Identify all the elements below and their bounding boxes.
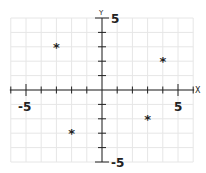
x-tick-label-max: 5 (174, 100, 182, 114)
scatter-chart: **** Y X -5 5 5 -5 (0, 0, 206, 173)
asterisk-marker: * (53, 40, 60, 55)
axes (10, 18, 194, 162)
asterisk-marker: * (68, 126, 75, 141)
y-axis-label: Y (98, 9, 104, 17)
x-axis-label: X (195, 86, 201, 95)
asterisk-marker: * (144, 112, 151, 127)
y-tick-label-max: 5 (111, 12, 119, 26)
x-tick-label-min: -5 (18, 100, 31, 114)
y-tick-label-min: -5 (111, 156, 124, 170)
asterisk-marker: * (159, 54, 166, 69)
